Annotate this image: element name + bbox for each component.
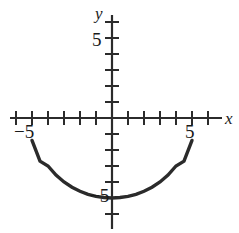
x-axis-label: x xyxy=(225,110,233,127)
y-axis-label: y xyxy=(95,5,103,22)
x-tick-label-5: 5 xyxy=(185,122,195,141)
graph-figure: y x 5 −5 5 −5 xyxy=(0,0,239,233)
y-tick-label-5: 5 xyxy=(92,30,102,49)
y-tick-label-neg5: −5 xyxy=(89,186,109,205)
coordinate-plane-svg xyxy=(0,0,239,233)
x-tick-label-neg5: −5 xyxy=(14,122,34,141)
